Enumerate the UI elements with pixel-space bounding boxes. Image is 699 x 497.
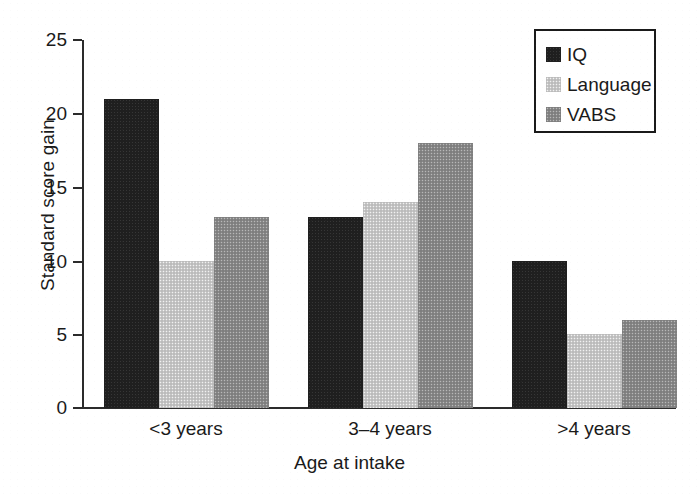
legend-label-language: Language [567, 75, 652, 94]
bar-language-under3 [159, 261, 214, 408]
legend-item-language: Language [546, 69, 654, 99]
legend-item-iq: IQ [546, 39, 654, 69]
y-axis-line [82, 40, 84, 409]
y-tick-label-10: 10 [5, 252, 67, 271]
bar-language-over4 [567, 334, 622, 408]
legend-swatch-language-icon [546, 77, 561, 92]
y-tick-5 [73, 334, 82, 336]
bar-iq-3to4 [308, 217, 363, 408]
legend-swatch-vabs-icon [546, 107, 561, 122]
x-tick-label-over4: >4 years [494, 418, 694, 440]
bar-vabs-3to4 [418, 143, 473, 408]
chart-legend: IQ Language VABS [534, 29, 656, 133]
y-tick-label-5: 5 [5, 325, 67, 344]
y-tick-15 [73, 187, 82, 189]
y-tick-10 [73, 261, 82, 263]
x-tick-label-under3: <3 years [86, 418, 286, 440]
x-axis-title: Age at intake [0, 452, 699, 474]
bar-vabs-over4 [622, 320, 677, 408]
y-tick-0 [73, 407, 82, 409]
bar-language-3to4 [363, 202, 418, 408]
y-tick-label-20: 20 [5, 104, 67, 123]
legend-swatch-iq-icon [546, 47, 561, 62]
y-tick-label-15: 15 [5, 178, 67, 197]
bar-iq-over4 [512, 261, 567, 408]
bar-vabs-under3 [214, 217, 269, 408]
y-tick-label-0: 0 [5, 398, 67, 417]
y-tick-20 [73, 113, 82, 115]
legend-label-iq: IQ [567, 45, 587, 64]
y-tick-label-25: 25 [5, 30, 67, 49]
x-tick-label-3to4: 3–4 years [290, 418, 490, 440]
y-tick-25 [73, 39, 82, 41]
bar-iq-under3 [104, 99, 159, 408]
legend-label-vabs: VABS [567, 105, 616, 124]
bar-chart-figure: Standard score gain 25 20 15 10 5 0 <3 y… [0, 0, 699, 497]
legend-item-vabs: VABS [546, 99, 654, 129]
